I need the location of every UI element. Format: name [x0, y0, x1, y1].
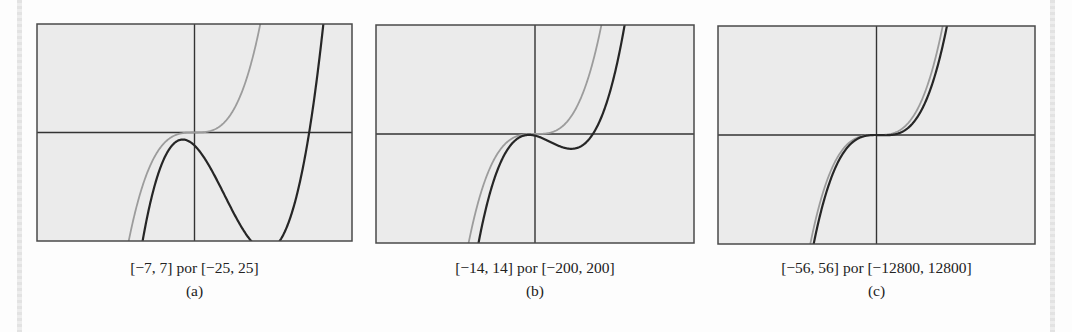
graph-b-plot [356, 0, 714, 250]
graph-panel-c: [−56, 56] por [−12800, 12800] (c) [698, 0, 1055, 332]
graph-c-panel-label: (c) [698, 283, 1055, 299]
graph-panel-b: [−14, 14] por [−200, 200] (b) [356, 0, 714, 332]
graph-panel-a: [−7, 7] por [−25, 25] (a) [17, 0, 372, 332]
graph-a-panel-label: (a) [17, 283, 372, 299]
graph-c-plot [698, 0, 1055, 250]
graph-b-panel-label: (b) [356, 283, 714, 299]
graph-a-window-label: [−7, 7] por [−25, 25] [17, 260, 372, 276]
graph-a-plot [17, 0, 372, 250]
graph-c-window-label: [−56, 56] por [−12800, 12800] [698, 260, 1055, 276]
graph-b-window-label: [−14, 14] por [−200, 200] [356, 260, 714, 276]
